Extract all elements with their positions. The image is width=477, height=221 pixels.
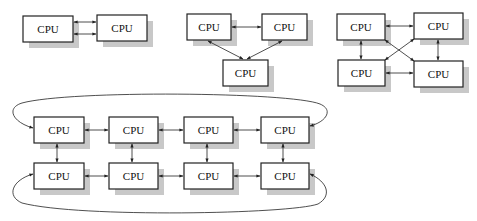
topology-three-node: CPU CPU CPU bbox=[187, 14, 313, 92]
cpu-label: CPU bbox=[274, 124, 295, 136]
cpu-label: CPU bbox=[274, 170, 295, 182]
cpu-label: CPU bbox=[48, 170, 69, 182]
cpu-label: CPU bbox=[274, 21, 295, 33]
cpu-label: CPU bbox=[111, 22, 132, 34]
cpu-label: CPU bbox=[235, 67, 256, 79]
bidirectional-link bbox=[247, 41, 282, 59]
cpu-label: CPU bbox=[198, 124, 219, 136]
bidirectional-link bbox=[385, 40, 414, 61]
cpu-label: CPU bbox=[123, 124, 144, 136]
cpu-label: CPU bbox=[428, 68, 449, 80]
topology-eight-node-torus: CPU CPU CPU CPU CPU CPU CPU CPU bbox=[13, 94, 327, 213]
cpu-label: CPU bbox=[350, 21, 371, 33]
cpu-label: CPU bbox=[198, 21, 219, 33]
cpu-topology-diagram: CPU CPU CPU CPU CPU CPU CPU CPU CPU bbox=[0, 0, 477, 221]
cpu-label: CPU bbox=[428, 20, 449, 32]
cpu-label: CPU bbox=[48, 124, 69, 136]
cpu-label: CPU bbox=[123, 170, 144, 182]
cpu-label: CPU bbox=[198, 170, 219, 182]
topology-four-node: CPU CPU CPU CPU bbox=[337, 13, 469, 93]
topology-two-node: CPU CPU bbox=[23, 15, 153, 48]
cpu-label: CPU bbox=[37, 23, 58, 35]
cpu-label: CPU bbox=[351, 67, 372, 79]
